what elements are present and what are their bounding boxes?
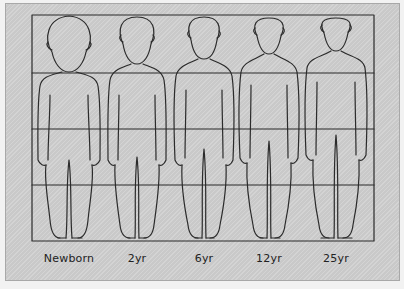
label-2yr: 2yr <box>128 252 147 265</box>
label-6yr: 6yr <box>195 252 214 265</box>
figure-6yr <box>174 17 234 238</box>
grid-frame <box>32 15 374 241</box>
figure-2yr <box>108 17 166 238</box>
label-newborn: Newborn <box>44 252 94 265</box>
figure-newborn <box>38 16 100 238</box>
figure-25yr <box>305 18 367 238</box>
figure-12yr <box>239 18 299 238</box>
proportions-diagram <box>0 0 404 289</box>
label-12yr: 12yr <box>256 252 282 265</box>
label-25yr: 25yr <box>323 252 349 265</box>
